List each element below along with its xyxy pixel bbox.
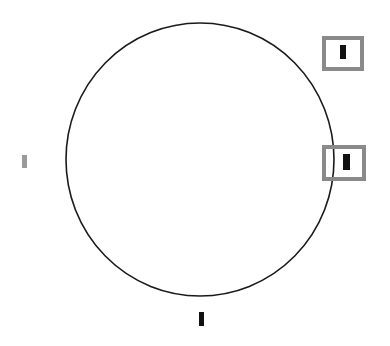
- figure-root: [0, 0, 390, 346]
- annotation-box-upper-right[interactable]: [322, 36, 364, 71]
- mark-bottom: [199, 312, 204, 326]
- annotation-box-mark: [340, 45, 346, 59]
- mark-left: [22, 155, 27, 168]
- annotation-box-mid-right[interactable]: [322, 145, 366, 181]
- annotation-box-mark: [343, 154, 350, 170]
